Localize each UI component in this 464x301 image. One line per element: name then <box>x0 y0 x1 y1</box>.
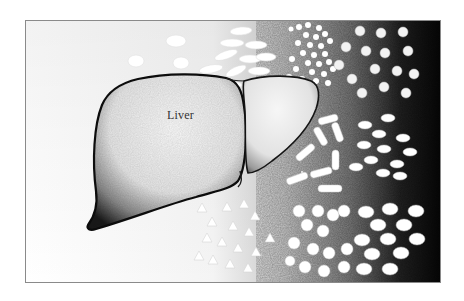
liver-illustration <box>26 21 441 283</box>
illustration-frame: Liver <box>25 20 441 283</box>
liver-label: Liver <box>167 108 194 123</box>
